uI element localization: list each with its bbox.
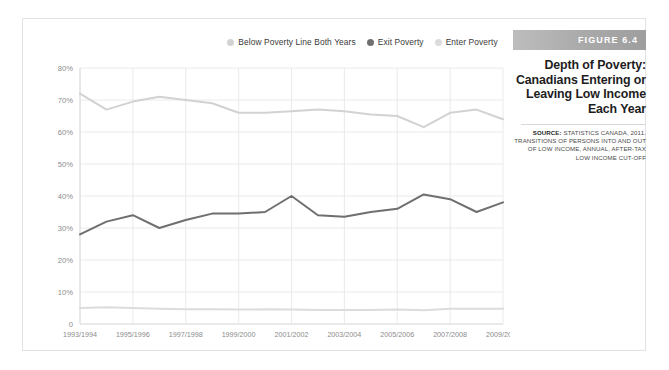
y-axis-tick-label: 20% — [58, 256, 73, 265]
x-axis-tick-label: 2003/2004 — [327, 330, 361, 339]
figure-number-label: FIGURE 6.4 — [578, 35, 638, 45]
x-axis-tick-label: 2005/2006 — [380, 330, 414, 339]
y-axis-tick-label: 80% — [58, 64, 73, 73]
figure-title: Depth of Poverty:Canadians Entering orLe… — [513, 58, 646, 116]
legend-label-below-poverty: Below Poverty Line Both Years — [238, 38, 355, 46]
legend-item-enter-poverty: Enter Poverty — [435, 38, 498, 46]
x-axis-tick-label: 2001/2002 — [275, 330, 309, 339]
source-divider — [521, 124, 646, 125]
legend-item-below-poverty: Below Poverty Line Both Years — [227, 38, 355, 46]
legend-label-enter-poverty: Enter Poverty — [446, 38, 498, 46]
y-axis-tick-label: 40% — [58, 192, 73, 201]
legend-swatch-exit-poverty — [367, 39, 374, 46]
figure-info-panel: FIGURE 6.4 Depth of Poverty:Canadians En… — [513, 30, 646, 175]
y-axis-tick-label: 60% — [58, 128, 73, 137]
y-axis-tick-label: 70% — [58, 96, 73, 105]
legend-label-exit-poverty: Exit Poverty — [378, 38, 424, 46]
x-axis-tick-label: 1999/2000 — [222, 330, 256, 339]
y-axis-tick-label: 50% — [58, 160, 73, 169]
figure-container: Below Poverty Line Both Years Exit Pover… — [0, 0, 669, 370]
x-axis-tick-labels: 1993/19941995/19961997/19981999/20002001… — [63, 330, 510, 339]
line-chart-svg: 010%20%30%40%50%60%70%80% 1993/19941995/… — [40, 58, 510, 340]
y-axis-tick-label: 10% — [58, 288, 73, 297]
source-label: SOURCE: — [533, 129, 564, 136]
x-axis-tick-label: 2007/2008 — [433, 330, 467, 339]
y-axis-tick-label: 0 — [69, 320, 73, 329]
figure-source: SOURCE: STATISTICS CANADA, 2011. TRANSIT… — [513, 129, 646, 162]
chart-plot-area: 010%20%30%40%50%60%70%80% 1993/19941995/… — [40, 58, 510, 340]
x-axis-tick-label: 2009/2010 — [486, 330, 510, 339]
legend-swatch-enter-poverty — [435, 39, 442, 46]
legend-swatch-below-poverty — [227, 39, 234, 46]
y-axis-tick-label: 30% — [58, 224, 73, 233]
x-axis-tick-label: 1993/1994 — [63, 330, 97, 339]
legend-item-exit-poverty: Exit Poverty — [367, 38, 424, 46]
figure-title-line: Canadians Entering or — [513, 73, 646, 88]
figure-title-line: Depth of Poverty: — [513, 58, 646, 73]
figure-number-banner: FIGURE 6.4 — [513, 30, 646, 50]
figure-title-line: Leaving Low Income — [513, 87, 646, 102]
y-axis-tick-labels: 010%20%30%40%50%60%70%80% — [58, 64, 73, 329]
x-axis-tick-label: 1995/1996 — [116, 330, 150, 339]
chart-legend: Below Poverty Line Both Years Exit Pover… — [210, 34, 515, 50]
x-axis-tick-label: 1997/1998 — [169, 330, 203, 339]
figure-title-line: Each Year — [513, 102, 646, 117]
